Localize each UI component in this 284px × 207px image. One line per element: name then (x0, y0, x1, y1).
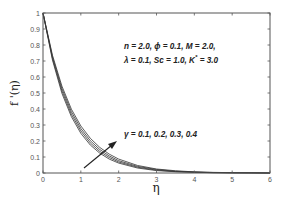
y-tick-label: 0.1 (30, 154, 40, 161)
gamma-annotation: γ = 0.1, 0.2, 0.3, 0.4 (124, 130, 198, 139)
y-tick-label: 0.6 (30, 74, 40, 81)
parameter-annotation-line-1: n = 2.0, ϕ = 0.1, M = 2.0, (124, 42, 216, 51)
x-tick-label: 4 (192, 176, 196, 183)
y-tick-label: 0.5 (30, 90, 40, 97)
y-axis-label: f '(η) (8, 80, 21, 106)
y-tick-label: 0.8 (30, 42, 40, 49)
y-tick-label: 0.7 (30, 58, 40, 65)
x-tick-label: 0 (41, 176, 45, 183)
plot-background (43, 13, 270, 173)
x-axis-label: η (152, 181, 159, 195)
chart: 0123456 00.10.20.30.40.50.60.70.80.91 η … (0, 0, 284, 207)
x-tick-label: 5 (230, 176, 234, 183)
y-tick-label: 0.3 (30, 122, 40, 129)
x-tick-label: 1 (79, 176, 83, 183)
y-tick-label: 0.4 (30, 106, 40, 113)
y-tick-label: 0 (36, 170, 40, 177)
y-tick-label: 1 (36, 10, 40, 17)
x-tick-label: 6 (268, 176, 272, 183)
y-tick-label: 0.9 (30, 26, 40, 33)
svg-text:f '(η): f '(η) (8, 80, 21, 106)
parameter-annotation-line-2: λ = 0.1, Sc = 1.0, K* = 3.0 (123, 54, 219, 65)
y-tick-label: 0.2 (30, 138, 40, 145)
x-tick-label: 2 (117, 176, 121, 183)
